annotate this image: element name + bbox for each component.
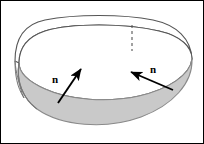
normal-vector-left-label: n <box>52 73 58 85</box>
mobius-strip-figure: n n <box>0 0 204 144</box>
normal-vector-right-label: n <box>150 63 156 75</box>
mobius-strip-canvas: n n <box>1 1 204 144</box>
